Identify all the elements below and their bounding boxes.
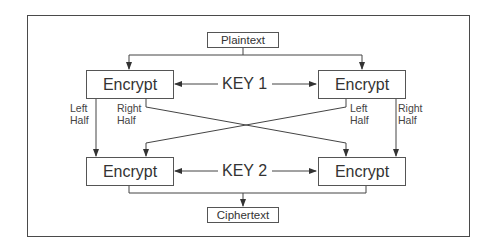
plaintext-node: Plaintext [207, 32, 279, 48]
plaintext-label: Plaintext [221, 34, 265, 46]
key1-label: KEY 1 [220, 75, 269, 93]
key2-label: KEY 2 [220, 162, 269, 180]
encrypt-label: Encrypt [335, 76, 389, 94]
edge-label-line: Left [70, 102, 89, 114]
edge-label-line: Half [117, 114, 142, 126]
edge-label-line: Right [117, 102, 142, 114]
encrypt-label: Encrypt [335, 163, 389, 181]
edge-label-tr-left-half: Left Half [350, 102, 369, 126]
edge-label-line: Left [350, 102, 369, 114]
encrypt-node-top-right: Encrypt [318, 70, 406, 99]
encrypt-node-top-left: Encrypt [86, 70, 174, 99]
edge-label-line: Half [350, 114, 369, 126]
edge-label-line: Half [398, 114, 423, 126]
encrypt-node-bottom-right: Encrypt [318, 157, 406, 186]
ciphertext-label: Ciphertext [217, 209, 269, 221]
ciphertext-node: Ciphertext [207, 207, 279, 223]
encrypt-label: Encrypt [103, 163, 157, 181]
edge-label-line: Half [70, 114, 89, 126]
edge-label-line: Right [398, 102, 423, 114]
edge-label-tr-right-half: Right Half [398, 102, 423, 126]
encrypt-label: Encrypt [103, 76, 157, 94]
edge-label-tl-right-half: Right Half [117, 102, 142, 126]
encrypt-node-bottom-left: Encrypt [86, 157, 174, 186]
edge-label-tl-left-half: Left Half [70, 102, 89, 126]
